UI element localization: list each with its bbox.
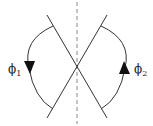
label-phi2: ϕ2 — [134, 62, 147, 78]
arrow-down-icon — [24, 61, 35, 74]
label-phi1: ϕ1 — [8, 62, 21, 78]
diagram-canvas: ϕ1 ϕ2 — [0, 0, 153, 126]
arrow-up-icon — [119, 61, 130, 74]
